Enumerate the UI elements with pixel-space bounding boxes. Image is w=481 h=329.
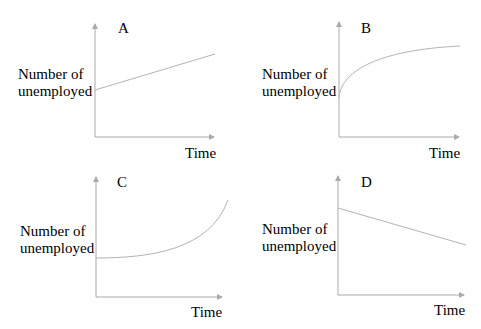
- y-axis-label: Number of: [20, 223, 85, 239]
- y-axis-label: Number of: [18, 66, 83, 82]
- panel-letter: A: [118, 20, 129, 36]
- panel-a: A Number of unemployed Time: [18, 20, 216, 161]
- panel-c: C Number of unemployed Time: [20, 174, 228, 320]
- x-axis-label: Time: [191, 304, 222, 320]
- panel-letter: D: [361, 174, 372, 190]
- x-axis-label: Time: [429, 145, 460, 161]
- y-axis-label: Number of: [262, 66, 327, 82]
- curve-b: [339, 46, 460, 97]
- curve-a: [95, 54, 215, 90]
- y-axis-label: unemployed: [18, 83, 93, 99]
- y-axis-label: unemployed: [262, 238, 337, 254]
- panel-letter: B: [361, 20, 371, 36]
- panel-letter: C: [117, 174, 127, 190]
- panel-d: D Number of unemployed Time: [262, 174, 466, 318]
- curve-c: [96, 200, 228, 258]
- y-axis-label: Number of: [262, 221, 327, 237]
- curve-d: [338, 208, 466, 245]
- y-axis-label: unemployed: [262, 83, 337, 99]
- y-axis-label: unemployed: [20, 240, 95, 256]
- diagram-canvas: A Number of unemployed Time B Number of …: [0, 0, 481, 329]
- panel-b: B Number of unemployed Time: [262, 20, 460, 161]
- x-axis-label: Time: [185, 145, 216, 161]
- x-axis-label: Time: [434, 302, 465, 318]
